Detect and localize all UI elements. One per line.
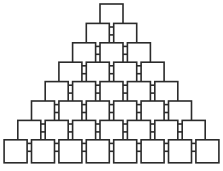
pyramid-node-square[interactable] bbox=[169, 140, 192, 163]
pyramid-node-square[interactable] bbox=[4, 140, 27, 163]
pyramid-node-square[interactable] bbox=[196, 140, 219, 163]
diagram-canvas bbox=[0, 0, 223, 171]
pyramid-node-square[interactable] bbox=[141, 140, 164, 163]
pyramid-diagram bbox=[0, 0, 223, 171]
pyramid-node-square[interactable] bbox=[86, 140, 109, 163]
pyramid-node-square[interactable] bbox=[32, 140, 55, 163]
pyramid-node-square[interactable] bbox=[59, 140, 82, 163]
pyramid-node-square[interactable] bbox=[114, 140, 137, 163]
